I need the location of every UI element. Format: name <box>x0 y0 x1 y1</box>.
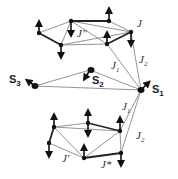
coupling-label-j: J <box>137 18 142 29</box>
spin-label-s2: S2 <box>92 75 104 89</box>
coupling-label-j-double-prime: J" <box>77 28 87 39</box>
coupling-label-j1-bottom: J1 <box>122 101 130 115</box>
spin-label-s3: S3 <box>9 74 21 88</box>
coupling-label-j-star: J* <box>101 159 111 170</box>
coupling-label-j1-top: J1 <box>111 60 119 74</box>
coupling-label-j2-top: J2 <box>139 54 147 68</box>
spin-label-s1: S1 <box>152 84 164 98</box>
coupling-label-j2-bottom: J2 <box>136 130 144 144</box>
coupling-label-j-prime: J' <box>62 153 69 164</box>
bottom-cluster-thick-bonds <box>49 123 121 158</box>
